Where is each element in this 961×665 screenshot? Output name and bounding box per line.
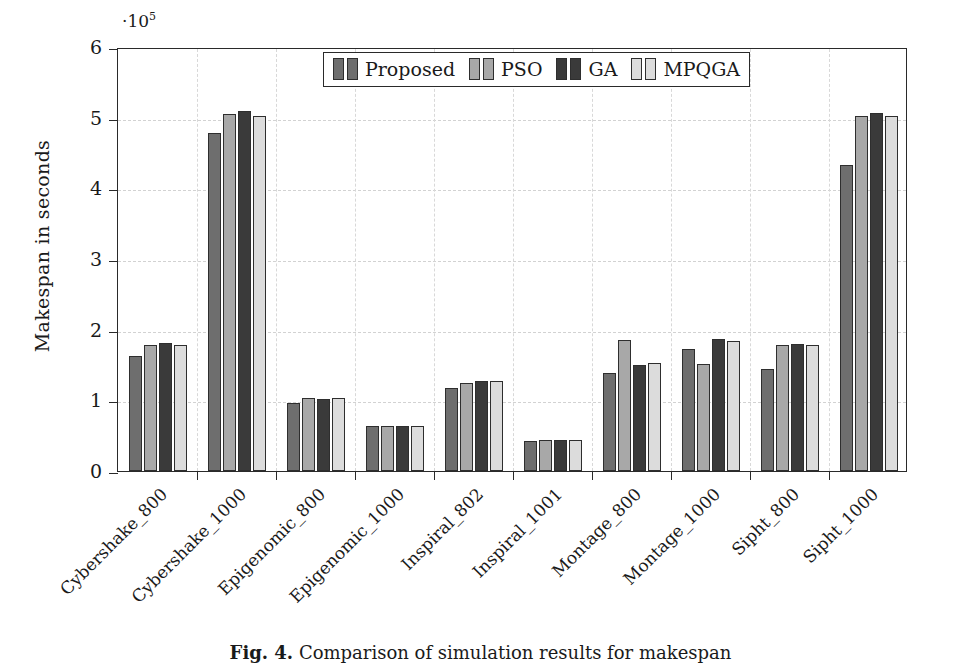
y-axis-tick: 4 <box>109 190 118 191</box>
bar-group <box>118 49 908 471</box>
legend-entry-pso: PSO <box>469 58 542 80</box>
x-axis-tick <box>829 471 830 480</box>
y-axis-tick-label: 2 <box>90 321 102 340</box>
figure-caption: Fig. 4. Comparison of simulation results… <box>0 642 961 663</box>
y-axis-multiplier-exponent: 5 <box>149 10 156 23</box>
y-axis-multiplier-base: ·10 <box>122 11 149 31</box>
legend-entry-proposed: Proposed <box>333 58 455 80</box>
y-axis-tick-label: 4 <box>90 179 102 198</box>
figure-container: Makespan in seconds ·105 0123456 Propose… <box>0 0 961 665</box>
legend-label: PSO <box>501 60 542 79</box>
legend-label: GA <box>588 60 617 79</box>
legend-swatch-icon <box>645 58 656 80</box>
bar-proposed-sipht_1000 <box>840 165 853 471</box>
y-axis-tick-label: 3 <box>90 250 102 269</box>
y-axis-tick-label: 1 <box>90 391 102 410</box>
y-axis-multiplier: ·105 <box>122 10 156 31</box>
bar-ga-sipht_1000 <box>870 113 883 471</box>
y-axis-tick: 1 <box>109 402 118 403</box>
y-axis-tick-label: 0 <box>90 462 102 481</box>
x-axis-tick <box>671 471 672 480</box>
y-axis-tick: 3 <box>109 261 118 262</box>
x-axis-tick <box>276 471 277 480</box>
bar-pso-sipht_1000 <box>855 116 868 471</box>
legend-label: MPQGA <box>663 60 740 79</box>
legend-swatch-icon <box>570 58 581 80</box>
legend-entry-ga: GA <box>556 58 617 80</box>
legend-swatch-icon <box>483 58 494 80</box>
x-axis-tick <box>513 471 514 480</box>
y-axis-tick: 2 <box>109 332 118 333</box>
y-axis-tick: 5 <box>109 120 118 121</box>
y-axis-tick-label: 6 <box>90 38 102 57</box>
bar-mpqga-sipht_1000 <box>885 116 898 471</box>
x-axis-tick <box>355 471 356 480</box>
plot-area: 0123456 ProposedPSOGAMPQGA <box>117 48 907 472</box>
x-axis-tick <box>592 471 593 480</box>
y-axis-tick-label: 5 <box>90 109 102 128</box>
x-axis-tick <box>750 471 751 480</box>
y-axis-tick: 6 <box>109 49 118 50</box>
legend-label: Proposed <box>365 60 455 79</box>
legend-swatch-icon <box>333 58 344 80</box>
x-axis-tick <box>197 471 198 480</box>
x-axis-tick <box>434 471 435 480</box>
legend-entry-mpqga: MPQGA <box>631 58 740 80</box>
figure-number: Fig. 4. <box>230 642 294 663</box>
legend-swatch-icon <box>556 58 567 80</box>
y-axis-title: Makespan in seconds <box>31 116 53 376</box>
legend-swatch-icon <box>631 58 642 80</box>
y-axis-tick: 0 <box>109 473 118 474</box>
figure-caption-text: Comparison of simulation results for mak… <box>299 642 732 663</box>
chart-legend: ProposedPSOGAMPQGA <box>323 52 750 87</box>
legend-swatch-icon <box>347 58 358 80</box>
legend-swatch-icon <box>469 58 480 80</box>
